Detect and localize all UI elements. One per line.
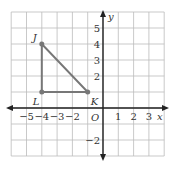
x-tick-label: −2 <box>65 111 80 122</box>
y-axis-label: y <box>107 11 114 22</box>
y-tick-label: 3 <box>94 55 100 66</box>
x-axis-right-arrow-icon <box>162 105 169 111</box>
y-tick-label: 4 <box>94 39 100 50</box>
y-axis-up-arrow-icon <box>100 10 106 17</box>
vertex-label-j: J <box>31 32 38 43</box>
vertex-point-l <box>39 90 44 95</box>
triangle-jkl: JLK <box>31 32 99 107</box>
x-tick-label: −3 <box>50 111 65 122</box>
labels: y x O −5−4−3−21235432−2 <box>19 11 163 146</box>
vertex-label-k: K <box>90 96 99 107</box>
x-tick-label: −4 <box>34 111 49 122</box>
vertex-point-k <box>85 90 90 95</box>
x-tick-label: 3 <box>146 111 152 122</box>
x-tick-label: −5 <box>19 111 34 122</box>
y-tick-label: 2 <box>94 71 100 82</box>
y-tick-label: 5 <box>94 23 100 34</box>
x-tick-label: 2 <box>130 111 136 122</box>
x-tick-label: 1 <box>115 111 121 122</box>
x-axis-left-arrow-icon <box>6 105 13 111</box>
x-axis-label: x <box>157 111 163 122</box>
vertex-point-j <box>39 42 44 47</box>
coordinate-plane-diagram: JLK y x O −5−4−3−21235432−2 <box>0 0 173 169</box>
triangle-outline <box>42 44 88 92</box>
vertex-label-l: L <box>32 96 40 107</box>
origin-label: O <box>91 112 99 123</box>
y-tick-label: −2 <box>85 135 100 146</box>
y-axis-down-arrow-icon <box>100 154 106 161</box>
